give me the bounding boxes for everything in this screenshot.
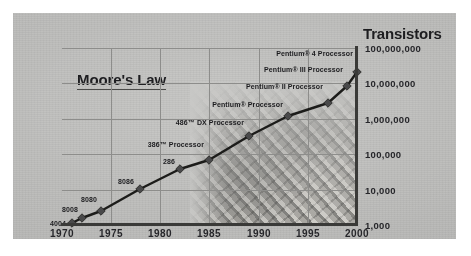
point-label-pentium: Pentium® Processor	[212, 101, 283, 108]
plot-area: 4004 8008 8080 8086 286 386™ Processor 4…	[62, 48, 357, 225]
point-label-386: 386™ Processor	[148, 141, 204, 148]
x-tick-label: 1995	[296, 228, 320, 239]
transistor-count-line	[62, 48, 357, 225]
y-axis-title: Transistors	[363, 25, 442, 42]
y-axis-line	[355, 46, 358, 226]
x-tick-label: 1975	[99, 228, 123, 239]
y-tick-label: 10,000,000	[365, 78, 416, 89]
point-label-pentium-4: Pentium® 4 Processor	[276, 50, 353, 57]
x-tick-label: 1980	[148, 228, 172, 239]
point-label-486-dx: 486™ DX Processor	[176, 119, 244, 126]
y-tick-label: 1,000,000	[365, 114, 410, 125]
series-markers	[68, 68, 361, 227]
point-label-pentium-ii: Pentium® II Processor	[246, 83, 323, 90]
point-label-8086: 8086	[118, 178, 134, 185]
series-polyline	[72, 72, 357, 223]
x-axis-line	[61, 223, 358, 226]
x-tick-label: 1990	[247, 228, 271, 239]
point-label-pentium-iii: Pentium® III Processor	[264, 66, 343, 73]
x-tick-label: 1970	[50, 228, 74, 239]
moores-law-poster: Transistors Moore's Law	[13, 13, 456, 239]
x-tick-label: 1985	[197, 228, 221, 239]
point-label-8080: 8080	[81, 196, 97, 203]
point-label-286: 286	[163, 158, 175, 165]
y-tick-label: 10,000	[365, 185, 396, 196]
y-tick-label: 100,000	[365, 149, 401, 160]
point-label-8008: 8008	[62, 206, 78, 213]
y-tick-label: 1,000	[365, 220, 390, 231]
y-tick-label: 100,000,000	[365, 43, 421, 54]
